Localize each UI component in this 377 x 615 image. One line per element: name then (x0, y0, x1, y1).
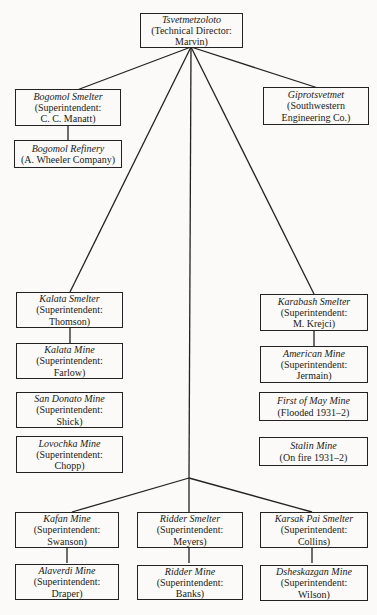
node-kafan-mine: Kafan Mine (Superintendent: Swanson) (15, 512, 119, 548)
node-subtitle: (Southwestern Engineering Co.) (282, 100, 351, 122)
node-subtitle: (Superintendent: Draper) (34, 576, 101, 598)
node-title: Kafan Mine (43, 513, 91, 524)
node-alaverdi-mine: Alaverdi Mine (Superintendent: Draper) (15, 564, 119, 600)
node-bogomol-refinery: Bogomol Refinery (A. Wheeler Company) (14, 140, 122, 168)
node-american-mine: American Mine (Superintendent: Jermain) (260, 346, 368, 383)
node-title: Stalin Mine (290, 440, 336, 451)
edge-root-bogomol (77, 47, 191, 90)
node-subtitle: (Superintendent: Chopp) (36, 449, 103, 471)
node-title: San Donato Mine (34, 393, 105, 404)
node-giprotsvetmet: Giprotsvetmet (Southwestern Engineering … (263, 87, 369, 125)
node-subtitle: (Superintendent: C. C. Manatt) (35, 102, 102, 124)
node-ridder-smelter: Ridder Smelter (Superintendent: Meyers) (137, 512, 243, 548)
node-title: Karsak Pai Smelter (275, 513, 353, 524)
node-subtitle: (Superintendent: Thomson) (36, 304, 103, 326)
node-title: Lovochka Mine (39, 438, 101, 449)
edge-root-trunk (189, 47, 191, 478)
node-san-donato-mine: San Donato Mine (Superintendent: Shick) (16, 392, 123, 428)
node-subtitle: (Superintendent: Farlow) (36, 355, 103, 377)
node-first-of-may-mine: First of May Mine (Flooded 1931–2) (259, 392, 368, 421)
node-title: Ridder Smelter (160, 513, 220, 524)
node-subtitle: (Superintendent: M. Krejci) (281, 307, 348, 329)
node-stalin-mine: Stalin Mine (On fire 1931–2) (259, 437, 368, 466)
edge-root-giprotsvetmet (191, 47, 318, 88)
node-karabash-smelter: Karabash Smelter (Superintendent: M. Kre… (260, 294, 368, 331)
node-subtitle: (Technical Director: Marvin) (151, 25, 232, 47)
node-subtitle: (A. Wheeler Company) (21, 154, 115, 165)
node-title: Karabash Smelter (278, 296, 351, 307)
node-subtitle: (Superintendent: Jermain) (281, 359, 348, 381)
node-karsak-pai-smelter: Karsak Pai Smelter (Superintendent: Coll… (260, 512, 368, 548)
node-subtitle: (Superintendent: Meyers) (157, 524, 224, 546)
node-subtitle: (Superintendent: Wilson) (281, 577, 348, 599)
node-title: Alaverdi Mine (38, 565, 95, 576)
node-title: First of May Mine (277, 395, 350, 406)
node-kalata-smelter: Kalata Smelter (Superintendent: Thomson) (16, 292, 123, 328)
edge-root-karabash (191, 47, 314, 294)
node-subtitle: (Superintendent: Banks) (157, 577, 224, 599)
node-lovochka-mine: Lovochka Mine (Superintendent: Chopp) (16, 436, 123, 473)
node-title: Tsvetmetzoloto (162, 14, 221, 25)
node-bogomol-smelter: Bogomol Smelter (Superintendent: C. C. M… (15, 89, 121, 126)
node-ridder-mine: Ridder Mine (Superintendent: Banks) (137, 565, 243, 600)
node-subtitle: (On fire 1931–2) (280, 452, 348, 463)
node-subtitle: (Flooded 1931–2) (278, 407, 350, 418)
node-title: Giprotsvetmet (288, 89, 344, 100)
edge-root-kalata (70, 47, 191, 292)
node-title: Bogomol Smelter (33, 91, 102, 102)
node-title: Dsheskazgan Mine (276, 566, 352, 577)
node-subtitle: (Superintendent: Collins) (281, 524, 348, 546)
node-title: Kalata Smelter (39, 293, 99, 304)
node-title: Ridder Mine (165, 566, 215, 577)
edge-root-kafan (72, 478, 189, 512)
node-subtitle: (Superintendent: Swanson) (34, 524, 101, 546)
edge-root-karsak (189, 478, 312, 512)
node-subtitle: (Superintendent: Shick) (36, 404, 103, 426)
org-chart: Tsvetmetzoloto (Technical Director: Marv… (0, 0, 377, 615)
node-title: American Mine (283, 348, 345, 359)
node-title: Kalata Mine (44, 344, 94, 355)
node-dsheskazgan-mine: Dsheskazgan Mine (Superintendent: Wilson… (260, 565, 368, 601)
node-tsvetmetzoloto: Tsvetmetzoloto (Technical Director: Marv… (140, 13, 243, 48)
node-title: Bogomol Refinery (32, 143, 104, 154)
node-kalata-mine: Kalata Mine (Superintendent: Farlow) (16, 343, 123, 379)
